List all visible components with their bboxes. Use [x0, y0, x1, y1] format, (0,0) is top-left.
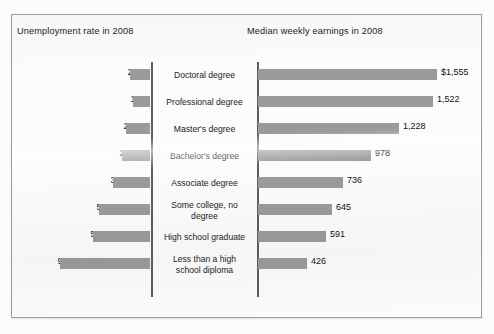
- chart-page: 2.0 Doctoral degree $1,555 1.7 Professio…: [0, 0, 494, 334]
- earnings-bar: [258, 258, 307, 269]
- category-label: Associate degree: [153, 170, 256, 197]
- unemployment-bar: [126, 123, 150, 134]
- category-label-line: Associate degree: [153, 178, 256, 189]
- unemployment-bar: [113, 177, 150, 188]
- earnings-bar: [258, 150, 371, 161]
- earnings-bar: [258, 69, 437, 80]
- category-label-line: Bachelor's degree: [153, 151, 256, 162]
- category-label: High school graduate: [153, 224, 256, 251]
- category-label-line: High school graduate: [153, 232, 256, 243]
- chart-frame: 2.0 Doctoral degree $1,555 1.7 Professio…: [11, 14, 482, 318]
- earnings-value: 1,228: [403, 121, 426, 131]
- earnings-bar: [258, 96, 433, 107]
- earnings-value: 978: [375, 148, 390, 158]
- category-label: Some college, no degree: [153, 197, 256, 224]
- chart-row: 5.1 Some college, no degree 645: [12, 197, 481, 224]
- earnings-value: 1,522: [437, 94, 460, 104]
- left-panel-title: Unemployment rate in 2008: [17, 26, 134, 36]
- plot-area: 2.0 Doctoral degree $1,555 1.7 Professio…: [12, 15, 481, 317]
- earnings-bar: [258, 204, 332, 215]
- category-label: Master's degree: [153, 116, 256, 143]
- unemployment-bar: [130, 69, 150, 80]
- chart-row: 2.0 Doctoral degree $1,555: [12, 62, 481, 89]
- unemployment-bar: [60, 258, 150, 269]
- chart-row: 2.4 Master's degree 1,228: [12, 116, 481, 143]
- unemployment-bar: [99, 204, 150, 215]
- category-label: Less than a high school diploma: [153, 251, 256, 278]
- earnings-value: 736: [347, 175, 362, 185]
- earnings-value: 645: [336, 202, 351, 212]
- chart-row: 3.7 Associate degree 736: [12, 170, 481, 197]
- chart-row: 2.8 Bachelor's degree 978: [12, 143, 481, 170]
- category-label: Doctoral degree: [153, 62, 256, 89]
- chart-row: 5.7 High school graduate 591: [12, 224, 481, 251]
- right-panel-title: Median weekly earnings in 2008: [247, 26, 383, 36]
- earnings-bar: [258, 177, 343, 188]
- category-label-line: Some college, no: [153, 200, 256, 211]
- earnings-value: 591: [330, 229, 345, 239]
- category-label-line: Less than a high: [153, 254, 256, 265]
- unemployment-bar: [133, 96, 150, 107]
- category-label-line: Doctoral degree: [153, 70, 256, 81]
- earnings-value: $1,555: [441, 67, 469, 77]
- category-label-line: degree: [153, 211, 256, 222]
- earnings-value: 426: [311, 256, 326, 266]
- chart-row: 1.7 Professional degree 1,522: [12, 89, 481, 116]
- category-label: Professional degree: [153, 89, 256, 116]
- earnings-bar: [258, 231, 326, 242]
- unemployment-bar: [93, 231, 150, 242]
- category-label-line: Master's degree: [153, 124, 256, 135]
- earnings-bar: [258, 123, 399, 134]
- category-label-line: school diploma: [153, 265, 256, 276]
- category-label-line: Professional degree: [153, 97, 256, 108]
- chart-row: 9.0 Less than a high school diploma 426: [12, 251, 481, 278]
- unemployment-bar: [122, 150, 150, 161]
- category-label: Bachelor's degree: [153, 143, 256, 170]
